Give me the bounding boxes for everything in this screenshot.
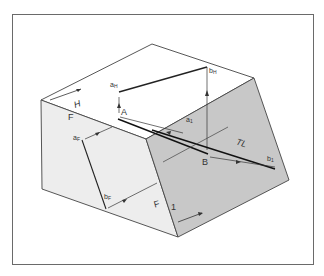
label-point-b: B bbox=[202, 158, 208, 167]
label-b-1: b1 bbox=[267, 155, 274, 163]
label-plane-f-bottom: F bbox=[153, 199, 161, 209]
label-plane-1: 1 bbox=[171, 203, 176, 212]
label-a-1: a1 bbox=[186, 116, 193, 124]
label-b-h: bH bbox=[209, 67, 217, 75]
label-plane-f-top: F bbox=[68, 113, 74, 122]
label-point-a: A bbox=[121, 108, 127, 117]
isometric-block-diagram bbox=[0, 0, 324, 276]
label-b-f: bF bbox=[104, 193, 111, 201]
label-a-f: aF bbox=[73, 134, 80, 142]
label-a-h: aH bbox=[110, 81, 118, 89]
